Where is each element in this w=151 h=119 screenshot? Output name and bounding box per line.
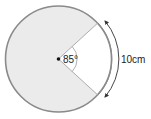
angle-label: 85°	[63, 54, 78, 65]
arc-length-label: 10cm	[121, 54, 145, 65]
circle-diagram: 85° 10cm	[0, 0, 151, 119]
arc-length-arrow	[105, 21, 119, 97]
center-dot	[57, 57, 61, 61]
